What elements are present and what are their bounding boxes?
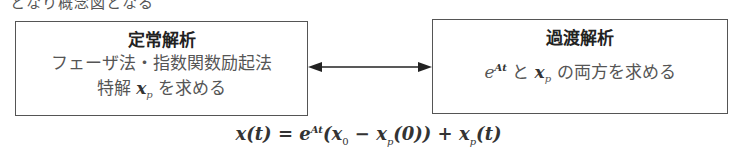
formula-lhs: x(t) = e xyxy=(236,123,311,144)
particular-prefix: 特解 xyxy=(97,78,131,98)
partial-heading-text: となり概念図となる xyxy=(10,0,154,12)
conjunction: と xyxy=(512,62,529,82)
exp-superscript: At xyxy=(495,62,507,73)
methods-text: フェーザ法・指数関数励起法 xyxy=(16,51,307,76)
solution-formula: x(t) = eAt(x0 − xp(0)) + xp(t) xyxy=(0,123,737,147)
transient-description: eAt と xp の両方を求める xyxy=(433,55,727,91)
bidirectional-arrow-icon xyxy=(308,57,432,77)
subscript-p: p xyxy=(146,89,152,100)
box-title-steady-state: 定常解析 xyxy=(16,29,307,51)
formula-exp-sup: At xyxy=(311,124,323,135)
formula-minus: − x xyxy=(349,123,387,144)
transient-analysis-box: 過渡解析 eAt と xp の両方を求める xyxy=(432,19,728,114)
exp-base: e xyxy=(484,62,494,82)
particular-solution-text: 特解 xp を求める xyxy=(16,76,307,107)
particular-suffix: を求める xyxy=(158,78,226,98)
subscript-p: p xyxy=(545,73,551,84)
formula-rest2: (t) xyxy=(476,123,501,144)
formula-mid: (x xyxy=(323,123,342,144)
formula-rest1: (0)) + x xyxy=(393,123,469,144)
vector-x: x xyxy=(535,62,545,82)
steady-state-analysis-box: 定常解析 フェーザ法・指数関数励起法 特解 xp を求める xyxy=(15,21,308,116)
transient-suffix: の両方を求める xyxy=(557,62,676,82)
vector-x: x xyxy=(136,78,146,98)
box-title-transient: 過渡解析 xyxy=(433,27,727,49)
